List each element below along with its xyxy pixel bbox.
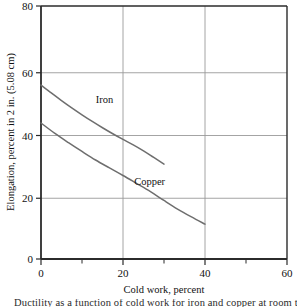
xtick-label-40: 40: [200, 267, 212, 279]
ytick-label-40: 40: [22, 130, 34, 142]
series-label-iron: Iron: [96, 94, 114, 105]
ytick-label-80: 80: [22, 0, 34, 12]
xtick-label-60: 60: [282, 267, 294, 279]
ytick-label-0: 0: [28, 253, 34, 265]
y-axis-title: Elongation, percent in 2 in. (5.08 cm): [5, 53, 17, 211]
y-axis-tick-labels: 80 60 40 20 0: [22, 0, 34, 265]
ytick-label-60: 60: [22, 67, 34, 79]
chart-canvas: 80 60 40 20 0 0 20 40 60 Cold work, perc: [0, 0, 297, 307]
series-label-copper: Copper: [134, 176, 165, 187]
plot-background: [41, 6, 287, 259]
xtick-label-0: 0: [38, 267, 44, 279]
figure-caption-clipped: Ductility as a function of cold work for…: [0, 299, 297, 307]
ytick-label-20: 20: [22, 192, 34, 204]
x-axis-title: Cold work, percent: [124, 284, 205, 295]
chart-figure: 80 60 40 20 0 0 20 40 60 Cold work, perc: [0, 0, 297, 307]
figure-caption-text: Ductility as a function of cold work for…: [14, 299, 297, 307]
xtick-label-20: 20: [118, 267, 130, 279]
x-axis-tick-labels: 0 20 40 60: [38, 267, 293, 279]
